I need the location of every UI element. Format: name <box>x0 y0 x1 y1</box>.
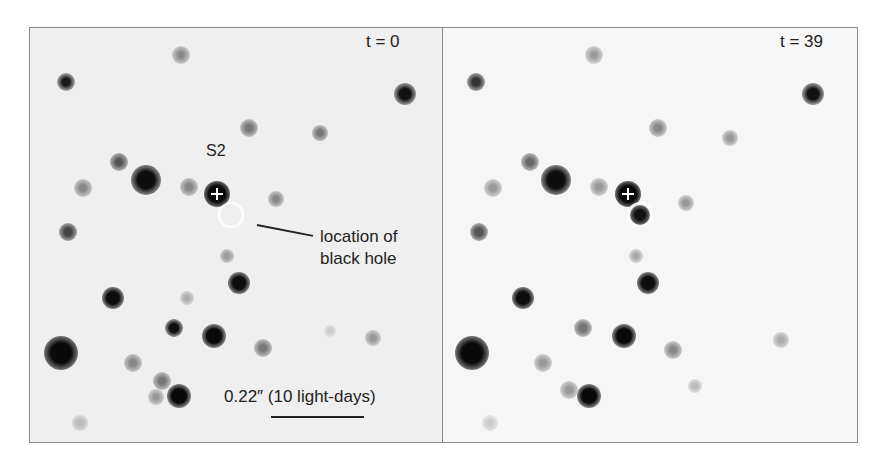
star <box>102 287 124 309</box>
star <box>470 223 488 241</box>
star <box>240 119 258 137</box>
star <box>802 83 824 105</box>
star <box>180 178 198 196</box>
star <box>541 165 571 195</box>
star <box>577 384 601 408</box>
star <box>220 249 234 263</box>
star <box>254 339 272 357</box>
star <box>59 223 77 241</box>
star <box>534 354 552 372</box>
star <box>124 354 142 372</box>
annotation-location-of: location of <box>320 226 398 248</box>
panel-t39: t = 39 <box>443 27 858 443</box>
star <box>324 325 336 337</box>
star <box>165 319 183 337</box>
star <box>688 379 702 393</box>
star <box>560 381 578 399</box>
star <box>57 73 75 91</box>
star <box>482 415 498 431</box>
star <box>455 336 489 370</box>
star <box>167 384 191 408</box>
s2-position-cross-icon <box>622 188 634 200</box>
star <box>153 372 171 390</box>
star <box>512 287 534 309</box>
star <box>664 341 682 359</box>
star <box>148 389 164 405</box>
annotation-black-hole: black hole <box>320 248 397 270</box>
star <box>678 195 694 211</box>
star <box>637 272 659 294</box>
star <box>180 291 194 305</box>
star <box>521 153 539 171</box>
star-label-s2: S2 <box>206 142 226 160</box>
panel-t0: t = 0 S2 location of black hole 0.22″ (1… <box>29 27 443 443</box>
star <box>467 73 485 91</box>
s2-position-cross-icon <box>211 188 223 200</box>
star <box>484 179 502 197</box>
scale-bar-label: 0.22″ (10 light-days) <box>224 386 376 408</box>
star <box>172 46 190 64</box>
annotation-pointer-line <box>257 224 313 237</box>
star <box>722 130 738 146</box>
star <box>228 272 250 294</box>
star <box>574 319 592 337</box>
star <box>394 83 416 105</box>
black-hole-location-ring-icon <box>627 202 653 228</box>
star <box>649 119 667 137</box>
star <box>585 46 603 64</box>
star <box>202 324 226 348</box>
time-label-t0: t = 0 <box>366 32 400 52</box>
star <box>773 332 789 348</box>
scale-bar <box>271 416 364 418</box>
star <box>365 330 381 346</box>
star <box>44 336 78 370</box>
star <box>268 191 284 207</box>
star <box>612 324 636 348</box>
star <box>312 125 328 141</box>
star <box>74 179 92 197</box>
star <box>590 178 608 196</box>
star <box>110 153 128 171</box>
star <box>629 249 643 263</box>
time-label-t39: t = 39 <box>780 32 823 52</box>
star <box>72 415 88 431</box>
star <box>131 165 161 195</box>
black-hole-location-ring-icon <box>218 202 244 228</box>
